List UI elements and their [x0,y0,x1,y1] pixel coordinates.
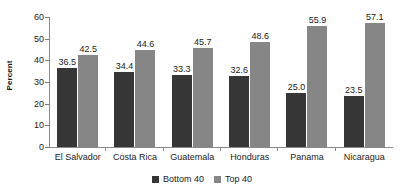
bar-group: 33.345.7 [164,17,221,147]
y-axis-tick-label: 20 [34,99,44,109]
y-axis-tick-label: 10 [34,120,44,130]
bar[interactable]: 25.0 [286,93,306,147]
bar-value-label: 33.3 [173,64,191,74]
bar[interactable]: 45.7 [193,48,213,147]
y-axis-tick-mark [45,147,49,148]
x-axis-tick-labels: El SalvadorCosta RicaGuatemalaHondurasPa… [49,152,393,162]
y-axis-title-label: Percent [5,60,14,90]
x-axis-tick-mark [163,147,164,151]
legend-item[interactable]: Top 40 [214,174,252,184]
x-axis-tick-label: Costa Rica [106,152,163,162]
bar[interactable]: 23.5 [344,96,364,147]
x-axis-tick-label: Nicaragua [336,152,393,162]
bar[interactable]: 33.3 [172,75,192,147]
bar-value-label: 42.5 [79,44,97,54]
legend-item[interactable]: Bottom 40 [152,174,204,184]
y-axis-tick-label: 50 [34,34,44,44]
bar-value-label: 34.4 [116,61,134,71]
bar[interactable]: 48.6 [250,42,270,147]
bar-groups: 36.542.534.444.633.345.732.648.625.055.9… [49,17,393,147]
y-axis-tick-label: 30 [34,77,44,87]
bar-group: 34.444.6 [106,17,163,147]
bar-value-label: 23.5 [345,85,363,95]
legend-item-label: Top 40 [225,174,252,184]
bar-value-label: 57.1 [366,12,384,22]
bar[interactable]: 44.6 [135,50,155,147]
bar-pair: 33.345.7 [164,17,221,147]
x-axis-tick-mark [277,147,278,151]
x-axis-tick-mark [335,147,336,151]
x-axis-tick-label: Honduras [221,152,278,162]
chart-legend: Bottom 40Top 40 [0,174,404,184]
bar-value-label: 25.0 [288,82,306,92]
x-axis-tick-label: El Salvador [49,152,106,162]
bar-group: 36.542.5 [49,17,106,147]
legend-swatch-icon [214,176,221,183]
x-axis-tick-mark [105,147,106,151]
x-axis-tick-label: Panama [278,152,335,162]
bar-group: 23.557.1 [336,17,393,147]
x-axis-tick-label: Guatemala [164,152,221,162]
x-axis-tick-mark [220,147,221,151]
bar-group: 25.055.9 [278,17,335,147]
bar-pair: 23.557.1 [336,17,393,147]
bar-pair: 25.055.9 [278,17,335,147]
y-axis-tick-label: 60 [34,12,44,22]
bar-value-label: 55.9 [309,15,327,25]
bar[interactable]: 32.6 [229,76,249,147]
bar[interactable]: 55.9 [307,26,327,147]
x-axis-line [49,147,393,148]
y-axis-title: Percent [0,0,18,150]
y-axis-tick-label: 0 [39,142,44,152]
bar-pair: 32.648.6 [221,17,278,147]
bar[interactable]: 57.1 [365,23,385,147]
bar[interactable]: 34.4 [114,72,134,147]
bar-chart: Percent 0102030405060 36.542.534.444.633… [0,0,404,196]
bar-value-label: 48.6 [251,31,269,41]
bar[interactable]: 42.5 [78,55,98,147]
plot-area: 0102030405060 36.542.534.444.633.345.732… [49,17,393,147]
bar-value-label: 45.7 [194,37,212,47]
bar-pair: 34.444.6 [106,17,163,147]
bar-value-label: 36.5 [58,57,76,67]
bar-group: 32.648.6 [221,17,278,147]
bar-value-label: 32.6 [230,65,248,75]
bar-value-label: 44.6 [137,39,155,49]
legend-item-label: Bottom 40 [163,174,204,184]
bar-pair: 36.542.5 [49,17,106,147]
y-axis-tick-label: 40 [34,55,44,65]
bar[interactable]: 36.5 [57,68,77,147]
legend-swatch-icon [152,176,159,183]
